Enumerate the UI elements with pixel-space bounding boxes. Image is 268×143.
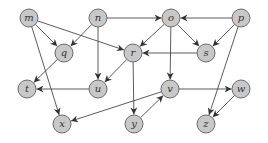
node-w: w — [232, 80, 250, 98]
node-o: o — [162, 9, 180, 27]
edge-o-r — [140, 24, 164, 46]
edge-p-s — [213, 24, 235, 46]
edge-w-z — [213, 95, 235, 117]
node-label: q — [61, 47, 67, 58]
node-u: u — [89, 80, 107, 98]
edge-m-q — [35, 24, 57, 46]
node-x: x — [53, 115, 71, 133]
node-label: x — [59, 118, 65, 129]
edge-v-x — [71, 92, 161, 121]
node-label: m — [24, 12, 33, 23]
node-t: t — [18, 80, 36, 98]
directed-graph: mnopqrstuvwxyz — [0, 0, 268, 143]
node-label: p — [238, 12, 245, 23]
edges-layer — [32, 18, 239, 121]
edge-r-y — [133, 62, 134, 115]
node-m: m — [20, 9, 38, 27]
edge-y-v — [140, 96, 163, 118]
node-label: w — [237, 83, 246, 94]
node-s: s — [197, 44, 215, 62]
node-v: v — [161, 80, 179, 98]
node-q: q — [55, 44, 73, 62]
node-p: p — [232, 9, 250, 27]
node-z: z — [197, 115, 215, 133]
node-label: s — [203, 47, 208, 58]
node-label: u — [95, 83, 101, 94]
node-label: z — [202, 118, 209, 129]
node-label: y — [130, 118, 137, 129]
node-y: y — [125, 115, 143, 133]
node-label: v — [167, 83, 173, 94]
edge-p-z — [209, 27, 238, 115]
edge-r-u — [105, 59, 127, 82]
edge-n-q — [71, 24, 92, 46]
node-label: n — [95, 12, 101, 23]
node-label: o — [168, 12, 174, 23]
edge-q-t — [34, 59, 58, 82]
node-r: r — [124, 44, 142, 62]
node-n: n — [89, 9, 107, 27]
edge-o-s — [177, 24, 199, 46]
